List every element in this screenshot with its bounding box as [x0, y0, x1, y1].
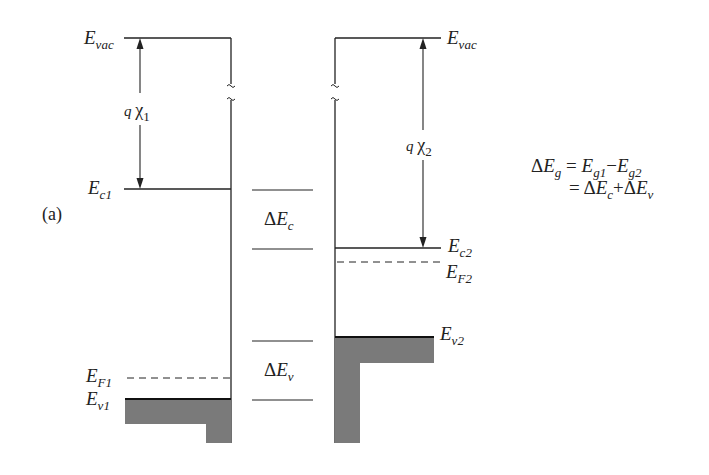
label-left-valence: Ev1: [86, 389, 110, 412]
label-delta-ev: ΔEv: [264, 360, 294, 383]
label-left-vacuum: Evac: [84, 28, 114, 51]
panel-label: (a): [42, 205, 62, 223]
label-q-chi-1: q χ1: [124, 101, 150, 123]
left-valence-band-fill: [125, 399, 231, 443]
label-right-valence: Ev2: [440, 324, 464, 347]
label-left-fermi: EF1: [86, 366, 112, 389]
right-valence-band-fill: [335, 337, 434, 443]
equation-line-1: ΔEg = Eg1−Eg2: [531, 156, 641, 179]
left-break-mark-icon: [227, 85, 235, 101]
equation-line-2: = ΔEc+ΔEv: [569, 178, 653, 201]
label-right-vacuum: Evac: [447, 28, 477, 51]
label-delta-ec: ΔEc: [264, 209, 294, 232]
label-right-fermi: EF2: [446, 262, 472, 285]
right-break-mark-icon: [331, 85, 339, 101]
label-q-chi-2: q χ2: [406, 136, 432, 158]
label-right-conduction: Ec2: [448, 236, 472, 259]
left-material: [124, 38, 235, 443]
label-left-conduction: Ec1: [88, 178, 112, 201]
